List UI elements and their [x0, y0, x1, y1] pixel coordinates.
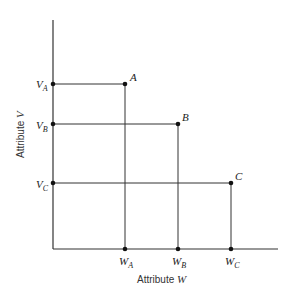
- point-a-dot: [123, 82, 128, 87]
- point-b-label: B: [182, 111, 189, 123]
- point-c-dot: [229, 181, 234, 186]
- w-b-dot: [176, 247, 181, 252]
- point-c-group: C VC WC: [36, 170, 243, 270]
- v-c-label: VC: [36, 178, 49, 193]
- attribute-diagram: A VA WA B VB WB C VC WC Attribute W Attr…: [0, 0, 293, 299]
- v-a-dot: [51, 82, 56, 87]
- w-c-label: WC: [225, 255, 240, 270]
- x-axis-label: Attribute W: [137, 273, 187, 285]
- point-c-label: C: [235, 170, 243, 182]
- y-axis-label: Attribute V: [14, 110, 26, 158]
- v-c-dot: [51, 181, 56, 186]
- w-b-label: WB: [172, 255, 186, 270]
- w-c-dot: [229, 247, 234, 252]
- w-a-label: WA: [119, 255, 133, 270]
- v-a-label: VA: [36, 78, 48, 93]
- point-a-group: A VA WA: [36, 71, 137, 270]
- point-b-dot: [176, 122, 181, 127]
- v-b-label: VB: [36, 119, 48, 134]
- point-b-group: B VB WB: [36, 111, 189, 270]
- v-b-dot: [51, 122, 56, 127]
- point-a-label: A: [129, 71, 137, 83]
- w-a-dot: [123, 247, 128, 252]
